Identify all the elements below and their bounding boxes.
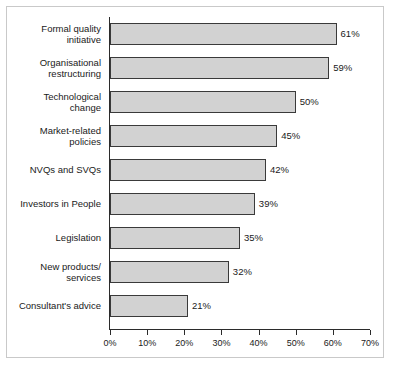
bar-value-label: 59% — [333, 57, 352, 79]
x-axis-tick-label: 10% — [127, 338, 167, 349]
bar-value-label: 50% — [300, 91, 319, 113]
x-axis-tick — [110, 330, 111, 335]
x-axis-tick-label: 30% — [201, 338, 241, 349]
x-axis-tick — [259, 330, 260, 335]
x-axis-tick — [147, 330, 148, 335]
bar — [110, 125, 277, 147]
category-label: New products/ services — [0, 261, 101, 284]
x-axis-tick-label: 50% — [276, 338, 316, 349]
bar — [110, 193, 255, 215]
x-axis-tick-label: 40% — [239, 338, 279, 349]
chart-frame: 0%10%20%30%40%50%60%70% Formal quality i… — [6, 6, 384, 358]
bar-value-label: 42% — [270, 159, 289, 181]
bar-value-label: 45% — [281, 125, 300, 147]
x-axis-tick — [184, 330, 185, 335]
category-label: NVQs and SVQs — [0, 164, 101, 176]
bar — [110, 57, 329, 79]
bar-value-label: 39% — [259, 193, 278, 215]
category-label: Organisational restructuring — [0, 57, 101, 80]
bar — [110, 261, 229, 283]
x-axis-tick — [221, 330, 222, 335]
bar-value-label: 61% — [341, 23, 360, 45]
bar — [110, 91, 296, 113]
category-label: Investors in People — [0, 198, 101, 210]
x-axis-tick-label: 70% — [350, 338, 390, 349]
bar-value-label: 35% — [244, 227, 263, 249]
category-label: Legislation — [0, 232, 101, 244]
x-axis-tick — [296, 330, 297, 335]
bar-value-label: 32% — [233, 261, 252, 283]
x-axis-tick-label: 0% — [90, 338, 130, 349]
bar — [110, 159, 266, 181]
bar — [110, 295, 188, 317]
x-axis-tick-label: 20% — [164, 338, 204, 349]
x-axis-tick-label: 60% — [313, 338, 353, 349]
category-label: Technological change — [0, 91, 101, 114]
x-axis-tick — [370, 330, 371, 335]
x-axis-tick — [333, 330, 334, 335]
x-axis-line — [109, 329, 370, 330]
bar — [110, 227, 240, 249]
category-label: Consultant's advice — [0, 300, 101, 312]
bar — [110, 23, 337, 45]
category-label: Market-related policies — [0, 125, 101, 148]
bar-value-label: 21% — [192, 295, 211, 317]
bar-chart-plot: 0%10%20%30%40%50%60%70% Formal quality i… — [7, 7, 385, 359]
category-label: Formal quality initiative — [0, 23, 101, 46]
